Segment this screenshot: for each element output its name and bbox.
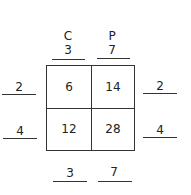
bottom-underline-c <box>53 181 87 182</box>
column-header-c: C <box>58 29 78 43</box>
cell-r2-c1: 12 <box>47 122 91 136</box>
top-underline-c <box>52 59 85 60</box>
left-value-row1: 2 <box>9 80 29 94</box>
bottom-underline-p <box>98 181 132 182</box>
left-underline-row2 <box>3 138 37 139</box>
cell-r1-c2: 14 <box>91 80 135 94</box>
right-value-row1: 2 <box>150 79 170 93</box>
top-underline-p <box>97 58 130 59</box>
column-header-p: P <box>102 29 122 43</box>
top-value-c: 3 <box>58 43 78 57</box>
right-underline-row2 <box>143 137 177 138</box>
left-underline-row1 <box>2 94 36 95</box>
bottom-value-c: 3 <box>60 166 80 180</box>
right-underline-row1 <box>143 93 177 94</box>
cell-r2-c2: 28 <box>91 122 135 136</box>
bottom-value-p: 7 <box>104 165 124 179</box>
left-value-row2: 4 <box>10 124 30 138</box>
punnett-grid: 6 14 12 28 <box>46 65 135 151</box>
top-value-p: 7 <box>102 43 122 57</box>
cell-r1-c1: 6 <box>47 80 91 94</box>
grid-horizontal-divider <box>47 108 134 109</box>
right-value-row2: 4 <box>150 123 170 137</box>
